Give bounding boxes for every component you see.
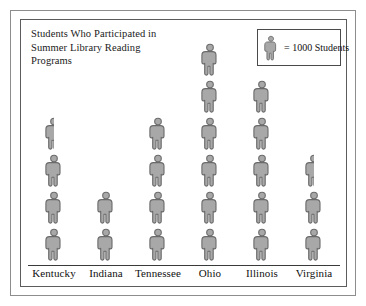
- pictograph-column: [83, 0, 129, 265]
- person-icon: [249, 154, 275, 187]
- person-icon: [197, 117, 223, 150]
- person-icon: [197, 80, 223, 113]
- person-icon: [249, 228, 275, 261]
- pictograph-column: [239, 0, 285, 265]
- person-icon-half: [41, 117, 54, 150]
- person-icon: [41, 191, 67, 224]
- person-icon: [145, 228, 171, 261]
- person-icon: [249, 117, 275, 150]
- x-axis-labels: KentuckyIndianaTennesseeOhioIllinoisVirg…: [28, 267, 340, 287]
- person-icon: [93, 191, 119, 224]
- person-icon: [93, 228, 119, 261]
- person-icon: [197, 154, 223, 187]
- pictograph-column: [135, 0, 181, 265]
- person-icon: [197, 191, 223, 224]
- baseline-axis: [28, 265, 340, 266]
- pictograph-column: [291, 0, 337, 265]
- person-icon: [301, 228, 327, 261]
- person-icon: [197, 43, 223, 76]
- person-icon: [145, 191, 171, 224]
- person-icon: [145, 154, 171, 187]
- person-icon: [41, 154, 67, 187]
- pictograph-figure: Students Who Participated in Summer Libr…: [0, 0, 366, 306]
- person-icon: [249, 80, 275, 113]
- person-icon: [197, 228, 223, 261]
- pictograph-column: [187, 0, 233, 265]
- person-icon: [301, 191, 327, 224]
- x-axis-label: Virginia: [279, 267, 349, 279]
- person-icon: [249, 191, 275, 224]
- pictograph-column: [31, 0, 77, 265]
- person-icon-half: [301, 154, 314, 187]
- person-icon: [145, 117, 171, 150]
- person-icon: [41, 228, 67, 261]
